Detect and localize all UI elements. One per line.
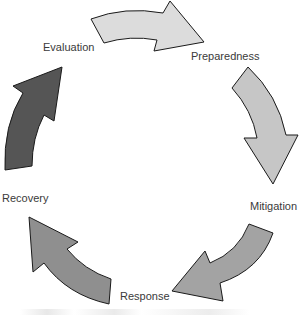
stage-label-response: Response xyxy=(120,291,170,302)
cropped-caption-remnant xyxy=(20,309,290,315)
disaster-management-cycle-diagram: Evaluation Preparedness Mitigation Respo… xyxy=(0,0,299,315)
stage-label-evaluation: Evaluation xyxy=(43,42,94,53)
arrow-recovery-to-evaluation xyxy=(5,67,62,170)
stage-label-preparedness: Preparedness xyxy=(191,51,260,62)
arrow-preparedness-to-mitigation xyxy=(232,67,298,184)
arrow-evaluation-to-preparedness xyxy=(91,1,204,51)
arrow-response-to-recovery xyxy=(29,217,111,304)
stage-label-mitigation: Mitigation xyxy=(250,201,297,212)
stage-label-recovery: Recovery xyxy=(2,193,48,204)
arrow-mitigation-to-response xyxy=(172,224,273,301)
